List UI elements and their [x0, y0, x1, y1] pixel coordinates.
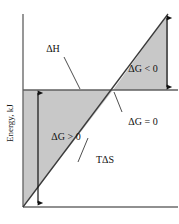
gibbs-energy-chart: Energy, kJ ΔH TΔS ΔG = 0 ΔG < 0 ΔG > 0	[0, 0, 179, 224]
y-axis-label: Energy, kJ	[5, 104, 15, 142]
delta-g-zero-leader-line	[114, 92, 122, 112]
delta-h-leader-line	[64, 57, 80, 89]
delta-h-label: ΔH	[46, 43, 60, 54]
energy-vs-temperature-figure: Energy, kJ ΔH TΔS ΔG = 0 ΔG < 0 ΔG > 0	[0, 0, 179, 224]
delta-g-positive-label: ΔG > 0	[51, 131, 80, 142]
t-delta-s-label: TΔS	[96, 154, 114, 165]
delta-g-zero-label: ΔG = 0	[128, 116, 157, 127]
delta-g-negative-label: ΔG < 0	[128, 63, 157, 74]
